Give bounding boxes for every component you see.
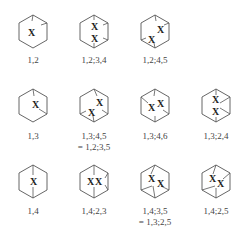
hexagon-icon: X X [64, 86, 124, 136]
diagram-label: 1,4;3,5 [125, 206, 185, 217]
svg-text:X: X [87, 176, 95, 187]
diagram-label-equivalent: = 1,3;2,5 [125, 217, 185, 228]
svg-text:X: X [30, 176, 38, 187]
diagram-label-equivalent: = 1,2;3,5 [64, 142, 124, 153]
svg-text:X: X [157, 178, 165, 189]
svg-text:X: X [148, 173, 156, 184]
diagram-label: 1,3 [3, 131, 63, 142]
hexagon-icon: X X [125, 86, 185, 136]
diagram-1-4-3-5: X X 1,4;3,5 = 1,3;2,5 [125, 162, 185, 224]
diagram-1-4-2-5: X X 1,4;2,5 [186, 162, 246, 224]
diagram-1-2-3-4: X X 1,2;3,4 [64, 12, 124, 74]
hexagon-icon: X X [186, 162, 246, 212]
diagram-label: 1,3;4,5 [64, 131, 124, 142]
svg-text:X: X [217, 178, 225, 189]
diagram-1-4: X 1,4 [3, 162, 63, 224]
diagram-label: 1,2 [3, 55, 63, 66]
svg-text:X: X [91, 33, 99, 44]
hexagon-icon: X [3, 162, 63, 212]
svg-text:X: X [209, 173, 217, 184]
cut-off-caption [80, 0, 170, 3]
diagram-label: 1,2;3,4 [64, 55, 124, 66]
diagram-1-2-4-5: X X 1,2;4,5 [125, 12, 185, 74]
svg-text:X: X [32, 99, 40, 110]
diagram-label: 1,4;2,3 [64, 206, 124, 217]
svg-text:X: X [91, 21, 99, 32]
diagram-1-4-2-3: X X 1,4;2,3 [64, 162, 124, 224]
diagram-label: 1,4 [3, 206, 63, 217]
diagram-label: 1,3;2,4 [186, 131, 246, 142]
svg-text:X: X [157, 98, 165, 109]
svg-text:X: X [148, 34, 156, 45]
diagram-label: 1,3;4,6 [125, 131, 185, 142]
svg-text:X: X [96, 97, 104, 108]
diagram-1-2: X 1,2 [3, 12, 63, 74]
svg-text:X: X [88, 107, 96, 118]
hexagon-icon: X X [64, 162, 124, 212]
svg-text:X: X [212, 94, 220, 105]
diagram-1-3: X 1,3 [3, 86, 63, 156]
hexagon-icon: X X [125, 162, 185, 212]
diagram-1-3-4-5: X X 1,3;4,5 = 1,2;3,5 [64, 86, 124, 156]
diagram-label: 1,4;2,5 [186, 206, 246, 217]
diagram-1-3-2-4: X X 1,3;2,4 [186, 86, 246, 156]
svg-text:X: X [148, 102, 156, 113]
diagram-1-3-4-6: X X 1,3;4,6 [125, 86, 185, 156]
hexagon-icon: X [3, 86, 63, 136]
svg-text:X: X [212, 106, 220, 117]
svg-text:X: X [28, 27, 36, 38]
diagram-label: 1,2;4,5 [125, 55, 185, 66]
hexagon-icon: X X [186, 86, 246, 136]
svg-text:X: X [157, 24, 165, 35]
svg-text:X: X [95, 176, 103, 187]
